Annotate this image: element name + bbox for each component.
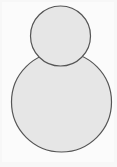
figure-canvas (0, 0, 117, 167)
circles-diagram (0, 0, 117, 167)
large-circle (12, 52, 112, 152)
small-circle (31, 6, 91, 66)
